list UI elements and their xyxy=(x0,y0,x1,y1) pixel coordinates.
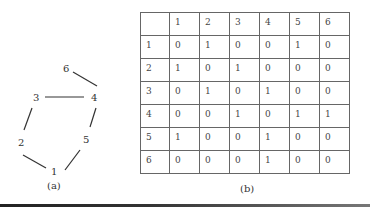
cell: 0 xyxy=(200,105,230,128)
row-header: 4 xyxy=(141,105,170,128)
node-2: 2 xyxy=(18,138,24,148)
col-header: 1 xyxy=(170,13,200,36)
edge-4-6 xyxy=(73,72,97,86)
node-6: 6 xyxy=(63,64,69,74)
table-row: 1 0 1 0 0 1 0 xyxy=(141,36,350,59)
cell: 0 xyxy=(260,105,290,128)
cell: 1 xyxy=(260,151,290,174)
cell: 0 xyxy=(320,151,350,174)
edge-5-1 xyxy=(65,150,80,170)
cell: 1 xyxy=(230,59,260,82)
edge-2-3 xyxy=(24,108,32,130)
cell: 0 xyxy=(170,36,200,59)
table-row: 5 1 0 0 1 0 0 xyxy=(141,128,350,151)
cell: 0 xyxy=(290,82,320,105)
cell: 0 xyxy=(320,36,350,59)
cell: 0 xyxy=(200,59,230,82)
cell: 1 xyxy=(290,36,320,59)
graph-figure-a: 1 2 3 4 5 6 (a) xyxy=(0,0,140,200)
cell: 0 xyxy=(170,105,200,128)
cell: 1 xyxy=(260,128,290,151)
row-header: 3 xyxy=(141,82,170,105)
node-4: 4 xyxy=(91,93,97,103)
cell: 1 xyxy=(260,82,290,105)
row-header: 1 xyxy=(141,36,170,59)
row-header: 5 xyxy=(141,128,170,151)
table-row: 6 0 0 0 1 0 0 xyxy=(141,151,350,174)
col-header: 5 xyxy=(290,13,320,36)
cell: 0 xyxy=(320,59,350,82)
table-row: 2 1 0 1 0 0 0 xyxy=(141,59,350,82)
edge-1-2 xyxy=(23,155,46,168)
cell: 0 xyxy=(320,128,350,151)
col-header: 3 xyxy=(230,13,260,36)
cell: 0 xyxy=(200,128,230,151)
cell: 0 xyxy=(200,151,230,174)
table-row: 3 0 1 0 1 0 0 xyxy=(141,82,350,105)
table-row: 4 0 0 1 0 1 1 xyxy=(141,105,350,128)
caption-b: (b) xyxy=(240,183,254,194)
cell: 0 xyxy=(290,59,320,82)
cell: 0 xyxy=(230,151,260,174)
cell: 0 xyxy=(230,128,260,151)
cell: 0 xyxy=(230,36,260,59)
node-3: 3 xyxy=(33,93,39,103)
cell: 1 xyxy=(200,82,230,105)
edge-4-5 xyxy=(90,108,96,127)
cell: 1 xyxy=(170,59,200,82)
caption-a: (a) xyxy=(47,180,61,191)
col-header: 4 xyxy=(260,13,290,36)
cell: 1 xyxy=(230,105,260,128)
cell: 0 xyxy=(260,36,290,59)
cell: 0 xyxy=(260,59,290,82)
graph-edges xyxy=(0,0,140,200)
cell: 0 xyxy=(320,82,350,105)
corner-cell xyxy=(141,13,170,36)
node-5: 5 xyxy=(83,135,89,145)
cell: 0 xyxy=(170,151,200,174)
cell: 0 xyxy=(230,82,260,105)
adjacency-matrix-table: 1 2 3 4 5 6 1 0 1 0 0 1 0 2 1 0 1 0 0 0 … xyxy=(140,12,350,174)
cell: 0 xyxy=(170,82,200,105)
cell: 0 xyxy=(290,151,320,174)
row-header: 6 xyxy=(141,151,170,174)
row-header: 2 xyxy=(141,59,170,82)
cell: 1 xyxy=(290,105,320,128)
node-1: 1 xyxy=(51,167,57,177)
cell: 1 xyxy=(200,36,230,59)
col-header: 6 xyxy=(320,13,350,36)
cell: 1 xyxy=(170,128,200,151)
cell: 1 xyxy=(320,105,350,128)
bottom-rule-divider xyxy=(0,204,370,207)
col-header: 2 xyxy=(200,13,230,36)
table-header-row: 1 2 3 4 5 6 xyxy=(141,13,350,36)
cell: 0 xyxy=(290,128,320,151)
